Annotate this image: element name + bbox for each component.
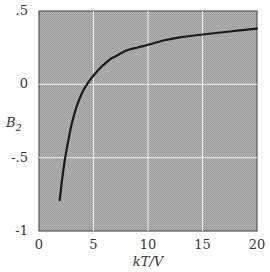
y-tick-label: -1 <box>15 223 28 238</box>
b2-vs-temperature-chart: 05101520 -1-.50.5 kT/V B2 <box>0 0 270 272</box>
x-tick-label: 5 <box>89 237 97 252</box>
x-tick-label: 0 <box>35 237 43 252</box>
x-tick-label: 15 <box>194 237 211 252</box>
y-tick-label: -.5 <box>11 150 28 165</box>
y-tick-label: 0 <box>20 76 28 91</box>
y-axis-label: B2 <box>5 115 22 133</box>
x-axis-ticks: 05101520 <box>35 237 265 252</box>
x-tick-label: 10 <box>140 237 157 252</box>
y-tick-label: .5 <box>16 3 28 18</box>
x-tick-label: 20 <box>249 237 266 252</box>
x-axis-label: kT/V <box>133 254 165 269</box>
